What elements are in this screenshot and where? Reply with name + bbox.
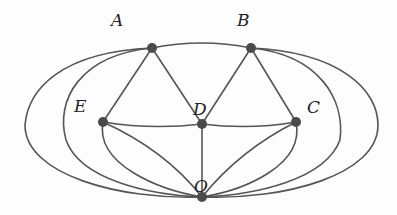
edge-c-o-outer <box>202 122 297 197</box>
edge-e-d <box>103 122 202 127</box>
edge-d-c <box>202 122 296 127</box>
label-d: D <box>193 101 207 118</box>
edge-b-d <box>202 48 251 124</box>
node-b <box>246 43 256 53</box>
edge-b-c <box>251 48 296 122</box>
label-e: E <box>74 98 86 115</box>
label-a: A <box>111 12 123 29</box>
node-c <box>291 117 301 127</box>
edge-c-o-inner <box>202 122 296 197</box>
label-c: C <box>307 99 320 116</box>
node-a <box>147 43 157 53</box>
node-e <box>98 117 108 127</box>
edge-a-b <box>152 43 251 48</box>
edge-e-o-inner <box>103 122 202 197</box>
edge-e-o-outer <box>102 122 202 197</box>
edge-a-e <box>103 48 152 122</box>
label-b: B <box>237 12 250 29</box>
edge-a-o-outer <box>25 48 202 197</box>
label-o: O <box>194 178 208 195</box>
node-d <box>197 119 207 129</box>
graph-diagram: A B E D C O <box>0 0 397 215</box>
